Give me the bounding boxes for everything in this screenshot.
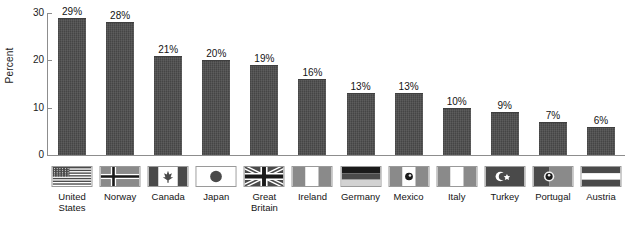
category-cell: Portugal	[529, 166, 577, 224]
category-label-line: Britain	[234, 202, 294, 213]
x-axis-line	[47, 155, 625, 156]
category-cell: Austria	[577, 166, 625, 224]
flag-japan-icon	[196, 166, 237, 187]
y-axis-tick-label: 10	[22, 102, 44, 113]
category-cell: Germany	[337, 166, 385, 224]
category-axis-flags: UnitedStatesNorwayCanadaJapanGreatBritai…	[48, 166, 625, 224]
bar-group: 28%	[96, 13, 144, 155]
bar-group: 9%	[481, 13, 529, 155]
bar-value-label: 7%	[546, 110, 560, 121]
bar-group: 10%	[433, 13, 481, 155]
bar-group: 13%	[385, 13, 433, 155]
bar	[491, 112, 519, 155]
flag-mexico-icon	[388, 166, 429, 187]
bar	[587, 127, 615, 155]
bar	[298, 79, 326, 155]
flag-turkey-icon	[484, 166, 525, 187]
bar-value-label: 16%	[302, 67, 322, 78]
category-cell: Japan	[192, 166, 240, 224]
bar-value-label: 6%	[594, 115, 608, 126]
bar-value-label: 9%	[498, 100, 512, 111]
category-cell: GreatBritain	[240, 166, 288, 224]
flag-united-states-icon	[52, 166, 93, 187]
flag-austria-icon	[580, 166, 621, 187]
bar	[443, 108, 471, 155]
bar-chart: Percent 0102030 29%28%21%20%19%16%13%13%…	[0, 0, 633, 225]
flag-canada-icon	[148, 166, 189, 187]
bar-group: 7%	[529, 13, 577, 155]
bar	[539, 122, 567, 155]
bar-value-label: 13%	[399, 81, 419, 92]
bar	[202, 60, 230, 155]
category-label: Austria	[571, 191, 631, 202]
y-axis-tick-label: 20	[22, 54, 44, 65]
bar	[154, 56, 182, 155]
flag-norway-icon	[100, 166, 141, 187]
category-cell: Canada	[144, 166, 192, 224]
flag-italy-icon	[436, 166, 477, 187]
category-cell: UnitedStates	[48, 166, 96, 224]
bar-group: 13%	[337, 13, 385, 155]
plot-area: 29%28%21%20%19%16%13%13%10%9%7%6%	[48, 13, 625, 155]
category-cell: Ireland	[288, 166, 336, 224]
bar-value-label: 20%	[206, 48, 226, 59]
bar-value-label: 21%	[158, 44, 178, 55]
bar-group: 16%	[288, 13, 336, 155]
bar	[58, 18, 86, 155]
category-label-line: States	[42, 202, 102, 213]
bar-value-label: 29%	[62, 6, 82, 17]
y-axis-tick-label: 0	[22, 149, 44, 160]
bar	[250, 65, 278, 155]
bar	[106, 22, 134, 155]
bar	[347, 93, 375, 155]
bar-value-label: 13%	[351, 81, 371, 92]
bar-value-label: 10%	[447, 96, 467, 107]
category-cell: Turkey	[481, 166, 529, 224]
y-axis-tick-label: 30	[22, 7, 44, 18]
bar-group: 21%	[144, 13, 192, 155]
bar-value-label: 28%	[110, 10, 130, 21]
category-cell: Italy	[433, 166, 481, 224]
category-cell: Norway	[96, 166, 144, 224]
bar-group: 20%	[192, 13, 240, 155]
bar-group: 6%	[577, 13, 625, 155]
bar-group: 19%	[240, 13, 288, 155]
bar	[395, 93, 423, 155]
bar-value-label: 19%	[254, 53, 274, 64]
flag-germany-icon	[340, 166, 381, 187]
y-axis-title: Percent	[4, 31, 15, 101]
category-cell: Mexico	[385, 166, 433, 224]
flag-portugal-icon	[532, 166, 573, 187]
flag-great-britain-icon	[244, 166, 285, 187]
flag-ireland-icon	[292, 166, 333, 187]
bar-group: 29%	[48, 13, 96, 155]
category-label-line: Austria	[571, 191, 631, 202]
